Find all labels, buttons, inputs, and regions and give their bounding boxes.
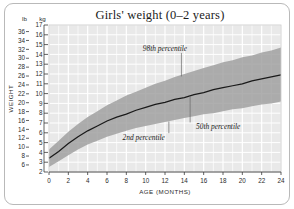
y-tick-label-lb: 8: [21, 152, 25, 159]
x-axis-title: AGE (MONTHS): [139, 188, 191, 195]
y-tick-label-kg: 8: [39, 109, 43, 116]
x-tick-label: 24: [277, 177, 285, 184]
y-tick-label-kg: 14: [35, 51, 43, 58]
y-tick-label-kg: 11: [36, 80, 43, 87]
unit-header-kg: kg: [39, 15, 46, 22]
y-tick-label-lb: 20: [18, 99, 26, 106]
y-tick-label-kg: 13: [35, 60, 43, 67]
y-tick-label-lb: 14: [18, 126, 26, 133]
annotation-50th-percentile: 50th percentile: [196, 122, 241, 131]
y-tick-label-lb: 32: [18, 46, 26, 53]
y-tick-label-kg: 2: [39, 168, 43, 175]
y-tick-label-kg: 6: [39, 129, 43, 136]
y-tick-label-kg: 17: [35, 21, 43, 28]
x-tick-label: 20: [239, 177, 247, 184]
y-tick-label-kg: 12: [35, 70, 43, 77]
x-tick-label: 0: [47, 177, 51, 184]
y-tick-label-lb: 10: [18, 143, 26, 150]
y-tick-label-lb: 24: [18, 81, 26, 88]
y-tick-label-lb: 30: [18, 54, 26, 61]
growth-chart-figure: 2345678910111213141516176810121416182022…: [0, 0, 294, 209]
y-tick-label-lb: 26: [18, 72, 26, 79]
y-tick-label-lb: 18: [18, 108, 26, 115]
y-tick-label-lb: 36: [18, 28, 26, 35]
y-tick-label-lb: 16: [18, 117, 26, 124]
y-tick-label-kg: 4: [39, 149, 43, 156]
x-tick-label: 10: [142, 177, 150, 184]
x-tick-label: 12: [161, 177, 169, 184]
y-tick-label-lb: 28: [18, 63, 26, 70]
x-tick-label: 4: [86, 177, 90, 184]
x-tick-label: 2: [67, 177, 71, 184]
y-tick-label-kg: 3: [39, 158, 43, 165]
y-tick-label-kg: 16: [35, 31, 43, 38]
x-tick-label: 6: [105, 177, 109, 184]
y-tick-label-kg: 9: [39, 100, 43, 107]
chart-title: Girls' weight (0–2 years): [95, 8, 224, 22]
y-tick-label-kg: 15: [35, 41, 43, 48]
x-tick-label: 14: [181, 177, 189, 184]
annotation-2nd-percentile: 2nd percentile: [123, 133, 166, 142]
annotation-98th-percentile: 98th percentile: [143, 44, 188, 53]
y-tick-label-lb: 34: [18, 37, 26, 44]
x-tick-label: 18: [219, 177, 227, 184]
y-axis-title: WEIGHT: [7, 85, 14, 113]
x-tick-label: 16: [200, 177, 208, 184]
y-tick-label-kg: 5: [39, 139, 43, 146]
y-tick-label-lb: 12: [18, 134, 26, 141]
y-tick-label-lb: 22: [18, 90, 26, 97]
x-tick-label: 8: [125, 177, 129, 184]
girls-weight-chart: 2345678910111213141516176810121416182022…: [0, 0, 294, 209]
y-tick-label-kg: 7: [39, 119, 43, 126]
y-tick-label-kg: 10: [35, 90, 43, 97]
x-tick-label: 22: [258, 177, 266, 184]
y-tick-label-lb: 6: [21, 161, 25, 168]
unit-header-lb: lb: [22, 15, 27, 22]
